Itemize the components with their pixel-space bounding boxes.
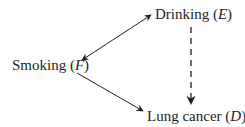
edge-smoking-lungcancer [77, 73, 143, 111]
edge-smoking-drinking [82, 15, 151, 60]
node-smoking: Smoking (F) [12, 57, 89, 74]
node-lung-cancer: Lung cancer (D) [147, 108, 245, 125]
causal-diagram: Drinking (E) Smoking (F) Lung cancer (D) [0, 0, 245, 127]
node-drinking: Drinking (E) [155, 6, 232, 23]
